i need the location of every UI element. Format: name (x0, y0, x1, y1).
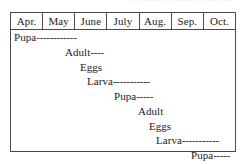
life-stage-label: Pupa (191, 149, 213, 161)
life-stage-label: Larva (87, 75, 113, 87)
life-stage-label: Eggs (80, 61, 102, 73)
life-stage-row: Eggs (149, 121, 171, 132)
life-stage-row: Eggs (80, 62, 102, 73)
month-header-cell: Apr. (11, 13, 43, 29)
life-stage-duration-dashes: ----------- (182, 134, 219, 146)
life-stage-label: Eggs (149, 120, 171, 132)
life-stage-row: Larva----------- (156, 135, 219, 146)
month-header-cell: June (75, 13, 107, 29)
life-stage-duration-dashes: ------------ (36, 31, 76, 43)
life-stage-label: Adult (138, 105, 163, 117)
life-stage-duration-dashes: ---- (90, 46, 103, 58)
life-stage-duration-dashes: ----- (136, 90, 153, 102)
month-header-cell: Aug. (140, 13, 172, 29)
cut-off-caption-fragment: ••• ••••••• ••• •••••••• ••• •••• ••• (130, 0, 238, 3)
life-stage-row: Pupa----- (191, 150, 230, 161)
life-stage-label: Adult (65, 46, 90, 58)
month-header-cell: Oct. (204, 13, 235, 29)
month-header-cell: May (43, 13, 75, 29)
life-stage-label: Pupa (114, 90, 136, 102)
life-stage-row: Pupa------------ (14, 32, 77, 43)
life-stage-row: Larva----------- (87, 76, 150, 87)
month-header-cell: July (107, 13, 139, 29)
life-cycle-chart: Apr.MayJuneJulyAug.Sep.Oct. Pupa--------… (10, 12, 236, 152)
life-stage-row: Adult (138, 106, 163, 117)
life-stage-label: Larva (156, 134, 182, 146)
month-header-cell: Sep. (172, 13, 204, 29)
life-stage-label: Pupa (14, 31, 36, 43)
life-stage-duration-dashes: ----- (213, 149, 230, 161)
life-stage-row: Adult---- (65, 47, 104, 58)
life-cycle-body: Pupa------------Adult----EggsLarva------… (11, 30, 235, 151)
life-stage-row: Pupa----- (114, 91, 153, 102)
life-stage-duration-dashes: ----------- (113, 75, 150, 87)
month-header-row: Apr.MayJuneJulyAug.Sep.Oct. (11, 13, 235, 30)
